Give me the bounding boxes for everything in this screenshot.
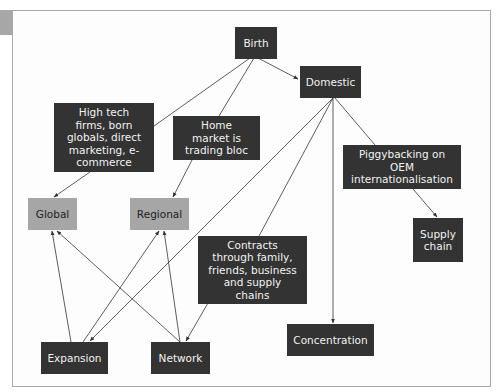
edge-piggybacking-supplychain	[413, 189, 437, 217]
edge-homemarket-regional	[173, 160, 192, 197]
edge-domestic-contracts	[259, 98, 333, 236]
node-regional: Regional	[130, 198, 189, 230]
node-expansion: Expansion	[41, 342, 108, 374]
edge-hightech-global	[54, 172, 90, 197]
node-supply-chain: Supply chain	[413, 218, 463, 262]
node-home-market: Home market is trading bloc	[173, 116, 260, 160]
edge-birth-domestic	[258, 58, 298, 79]
node-birth: Birth	[235, 27, 277, 59]
node-domestic: Domestic	[300, 66, 361, 98]
node-piggybacking: Piggybacking on OEM internationalisation	[343, 145, 461, 189]
node-contracts: Contracts through family, friends, busin…	[198, 236, 307, 304]
edge-expansion-global	[52, 231, 71, 342]
node-concentration: Concentration	[287, 324, 374, 356]
edge-expansion-regional	[83, 231, 159, 342]
edge-contracts-network	[186, 303, 208, 341]
node-network: Network	[151, 342, 210, 374]
edge-birth-homemarket	[219, 58, 254, 116]
node-global: Global	[28, 198, 77, 230]
node-high-tech: High tech firms, born globals, direct ma…	[54, 103, 154, 172]
edge-network-regional	[164, 231, 180, 342]
edge-network-global	[57, 231, 180, 342]
edge-domestic-piggybacking	[335, 98, 375, 145]
